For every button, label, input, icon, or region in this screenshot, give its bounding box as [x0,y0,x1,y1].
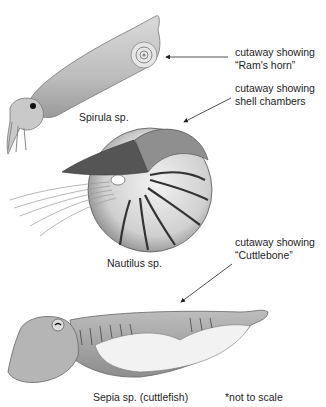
callout-shell-chambers-line2: shell chambers [235,95,315,108]
callout-rams-horn-line2: “Ram's horn” [235,59,315,72]
sepia-illustration [8,310,268,382]
label-nautilus: Nautilus sp. [107,257,162,270]
footnote-not-to-scale: *not to scale [225,391,283,404]
label-sepia: Sepia sp. (cuttlefish) [93,391,188,404]
callout-cuttlebone-line1: cutaway showing [235,236,315,249]
label-spirula: Spirula sp. [79,111,129,124]
arrow-cuttlebone [181,264,232,302]
callout-rams-horn: cutaway showing “Ram's horn” [235,46,315,71]
callout-shell-chambers-line1: cutaway showing [235,82,315,95]
callout-rams-horn-line1: cutaway showing [235,46,315,59]
callout-cuttlebone-line2: “Cuttlebone” [235,249,315,262]
nautilus-illustration [10,128,212,252]
callout-cuttlebone: cutaway showing “Cuttlebone” [235,236,315,261]
arrow-shell-chambers [184,98,231,122]
callout-shell-chambers: cutaway showing shell chambers [235,82,315,107]
